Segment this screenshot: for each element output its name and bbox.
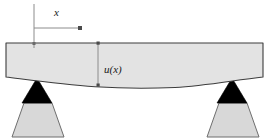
- deflection-measure-top-marker: [97, 42, 100, 45]
- beam-deflection-figure: x u(x): [0, 0, 269, 140]
- right-pedestal: [207, 103, 259, 137]
- axis-arrow-endpoint-marker: [78, 26, 82, 30]
- beam-body: [6, 43, 263, 88]
- deflection-label: u(x): [104, 64, 122, 75]
- figure-canvas: [0, 0, 269, 140]
- deflection-measure-bottom-marker: [97, 84, 100, 87]
- axis-x-label: x: [54, 7, 59, 18]
- right-support: [207, 78, 259, 137]
- left-pedestal: [12, 103, 64, 137]
- axis-origin-marker: [33, 42, 36, 45]
- left-support: [12, 78, 64, 137]
